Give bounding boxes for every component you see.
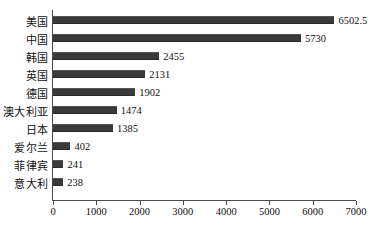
category-label: 爱尔兰 [0,142,48,154]
x-axis-tick [269,201,270,205]
category-label: 澳大利亚 [0,106,48,118]
x-axis-tick [226,201,227,205]
category-label: 美国 [0,16,48,28]
category-label: 菲律宾 [0,160,48,172]
category-label: 中国 [0,34,48,46]
bar-value-label: 402 [74,141,90,152]
bar[interactable] [53,34,301,42]
x-axis-line [52,200,356,201]
category-label-row: 美国 [0,16,48,28]
category-label-row: 德国 [0,88,48,100]
category-label: 意大利 [0,178,48,190]
category-label-row: 韩国 [0,52,48,64]
y-axis-line [52,10,53,201]
category-label: 韩国 [0,52,48,64]
x-axis-tick [96,201,97,205]
category-label: 英国 [0,70,48,82]
bar[interactable] [53,88,135,96]
x-axis-tick [183,201,184,205]
bar[interactable] [53,70,145,78]
category-label-row: 日本 [0,124,48,136]
bar-chart: 美国 中国 韩国 英国 德国 澳大利亚 日本 爱尔兰 菲律宾 意大利 6502.… [0,0,379,228]
x-axis-tick [140,201,141,205]
category-label-row: 中国 [0,34,48,46]
category-label-row: 菲律宾 [0,160,48,172]
category-label-row: 澳大利亚 [0,106,48,118]
bar[interactable] [53,52,159,60]
bar-value-label: 1474 [121,105,142,116]
x-axis-tick [53,201,54,205]
bar[interactable] [53,142,70,150]
x-axis-tick-label: 7000 [326,206,379,218]
bar-value-label: 1902 [139,87,160,98]
bar-value-label: 2131 [149,69,170,80]
bar[interactable] [53,178,63,186]
bar[interactable] [53,160,63,168]
category-label: 德国 [0,88,48,100]
category-label: 日本 [0,124,48,136]
bar-value-label: 238 [67,177,83,188]
bar-value-label: 1385 [117,123,138,134]
bar[interactable] [53,124,113,132]
bar-value-label: 241 [67,159,83,170]
bar[interactable] [53,16,334,24]
x-axis-tick [356,201,357,205]
bar-value-label: 2455 [163,51,184,62]
x-axis-tick [313,201,314,205]
category-label-row: 英国 [0,70,48,82]
bar-value-label: 6502.5 [338,15,367,26]
bar-value-label: 5730 [305,33,326,44]
category-label-row: 爱尔兰 [0,142,48,154]
bar[interactable] [53,106,117,114]
category-label-row: 意大利 [0,178,48,190]
